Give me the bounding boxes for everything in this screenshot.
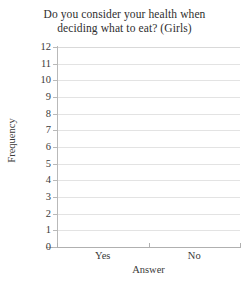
y-axis-tick-label-wrap: 1 [26, 225, 51, 235]
y-axis-tick [53, 164, 57, 165]
y-axis-tick-label-wrap: 11 [26, 59, 51, 69]
y-axis-line [57, 46, 58, 248]
y-axis-tick-label-wrap: 10 [26, 75, 51, 85]
x-axis-tick [149, 243, 150, 248]
y-axis-tick-label: 1 [26, 225, 51, 235]
y-axis-tick-label: 7 [26, 125, 51, 135]
y-axis-tick [53, 130, 57, 131]
y-axis-tick-label-wrap: 6 [26, 142, 51, 152]
y-axis-tick-label-wrap: 2 [26, 209, 51, 219]
y-axis-tick-label-wrap: 9 [26, 92, 51, 102]
y-axis-tick-label: 5 [26, 159, 51, 169]
y-axis-tick [53, 230, 57, 231]
y-axis-tick-label-wrap: 12 [26, 42, 51, 52]
y-axis-tick [53, 197, 57, 198]
chart-title-line-1: Do you consider your health when [0, 7, 249, 21]
x-axis-line [46, 247, 240, 248]
y-axis-tick-label: 2 [26, 209, 51, 219]
y-axis-tick [53, 147, 57, 148]
x-axis-tick [240, 243, 241, 248]
y-axis-tick-label-wrap: 4 [26, 175, 51, 185]
y-axis-tick [53, 47, 57, 48]
y-axis-tick-label-wrap: 5 [26, 159, 51, 169]
plot-area [57, 47, 240, 247]
y-axis-tick-label: 4 [26, 175, 51, 185]
y-axis-tick [53, 97, 57, 98]
y-axis-tick-label-wrap: 0 [26, 242, 51, 252]
bars-layer [57, 47, 240, 247]
y-axis-tick-label: 11 [26, 59, 51, 69]
y-axis-tick [53, 80, 57, 81]
y-axis-tick-label: 12 [26, 42, 51, 52]
y-axis-tick-label-wrap: 3 [26, 192, 51, 202]
y-axis-tick-label: 9 [26, 92, 51, 102]
y-axis-tick [53, 214, 57, 215]
x-axis-title: Answer [57, 264, 240, 275]
y-axis-tick-label-wrap: 7 [26, 125, 51, 135]
y-axis-tick-label: 0 [26, 242, 51, 252]
chart-title-line-2: deciding what to eat? (Girls) [0, 21, 249, 35]
y-axis-tick-label: 8 [26, 109, 51, 119]
x-axis-category-label-no: No [164, 250, 224, 262]
y-axis-tick-label: 6 [26, 142, 51, 152]
y-axis-tick-label-wrap: 8 [26, 109, 51, 119]
x-axis-tick [57, 243, 58, 248]
chart-figure: Do you consider your health when decidin… [0, 0, 249, 287]
y-axis-tick-label: 10 [26, 75, 51, 85]
x-axis-category-label-yes: Yes [73, 250, 133, 262]
y-axis-tick [53, 114, 57, 115]
y-axis-tick-label: 3 [26, 192, 51, 202]
y-axis-tick [53, 180, 57, 181]
y-axis-title: Frequency [6, 106, 17, 176]
chart-title: Do you consider your health when decidin… [0, 7, 249, 35]
y-axis-tick [53, 64, 57, 65]
